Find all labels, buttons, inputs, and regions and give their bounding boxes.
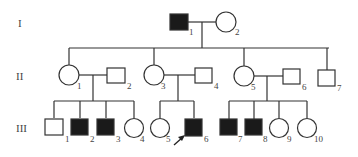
affected-male-III-2 [71,119,88,135]
male-III-1 [45,119,63,135]
id-label: 4 [214,81,219,91]
affected-male-III-6-proband [185,119,202,136]
female-II-1 [59,65,79,85]
id-label: 10 [314,134,324,144]
id-label: 1 [189,27,194,37]
affected-male-I-1 [170,14,188,30]
male-II-2 [107,68,125,83]
generation-label-II: II [16,70,24,82]
id-label: 6 [204,134,209,144]
id-label: 5 [166,134,171,144]
male-II-6 [283,69,300,84]
generation-label-I: I [18,17,22,29]
id-label: 1 [77,81,82,91]
female-I-2 [216,12,236,32]
id-label: 2 [127,81,132,91]
id-label: 7 [337,83,342,93]
id-label: 9 [287,134,292,144]
id-label: 5 [251,82,256,92]
id-label: 2 [235,27,240,37]
id-label: 4 [140,134,145,144]
id-label: 1 [65,134,70,144]
id-label: 7 [238,134,243,144]
generation-II: 1 2 3 4 5 6 7 [59,65,342,93]
affected-male-III-3 [97,119,114,135]
generation-III: 1 2 3 4 5 6 7 8 9 10 [45,119,324,146]
affected-male-III-8 [245,119,262,135]
male-II-4 [195,68,212,83]
id-label: 3 [161,81,166,91]
id-label: 2 [90,134,95,144]
affected-male-III-7 [220,119,237,135]
id-label: 8 [263,134,268,144]
generation-label-III: III [16,122,27,134]
id-label: 6 [302,82,307,92]
id-label: 3 [116,134,121,144]
proband-arrow-icon [174,135,185,145]
female-III-9 [270,119,289,138]
generation-I: 1 2 [170,12,240,48]
pedigree-diagram: I II III 1 2 1 2 3 4 5 6 7 [0,0,358,157]
male-II-7 [318,70,335,86]
